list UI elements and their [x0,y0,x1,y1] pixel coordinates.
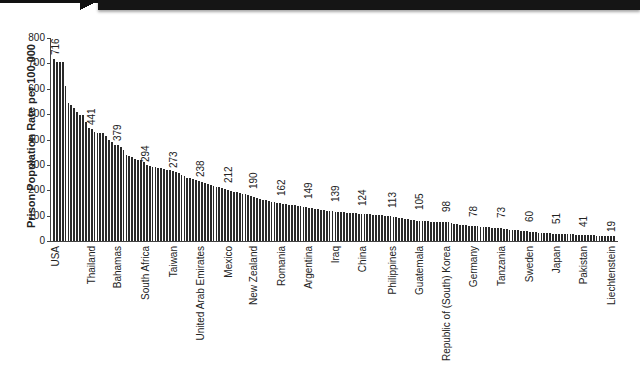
bar [276,203,278,241]
bar [82,115,84,241]
bar [53,59,55,241]
bar [581,235,583,241]
bar [268,201,270,241]
bar [245,194,247,241]
bar [279,203,281,241]
bar [311,208,313,241]
x-tick-label: Tanzania [496,246,507,373]
bar [282,204,284,241]
bar [433,222,435,241]
x-tick-label: Thailand [86,246,97,373]
x-tick-label: Philippines [387,246,398,373]
value-label: 139 [330,185,341,202]
bar [303,207,305,241]
bar [216,187,218,241]
bar [369,214,371,241]
bar [140,160,142,241]
bar [352,213,354,241]
bar [256,198,258,241]
bar [195,180,197,241]
bar [453,224,455,242]
bar [120,147,122,241]
value-label: 41 [578,215,589,226]
bar [395,217,397,241]
bar [378,215,380,241]
bar [538,233,540,241]
bar [224,189,226,241]
bar [491,228,493,241]
value-label: 73 [496,207,507,218]
bar [236,192,238,241]
bar [157,168,159,241]
bar [416,221,418,241]
bar [189,178,191,241]
value-label: 212 [223,167,234,184]
bar [239,193,241,241]
bar [308,208,310,241]
bar [552,234,554,241]
bar [468,226,470,241]
bar [105,136,107,241]
x-tick-label: Guatemala [414,246,425,373]
x-tick-label: China [357,246,368,373]
bar [430,222,432,241]
bar [483,227,485,241]
bar [442,222,444,241]
bar [390,216,392,241]
bar [143,162,145,241]
bar [300,206,302,241]
value-label: 51 [551,213,562,224]
value-label: 190 [248,172,259,189]
bar [503,229,505,241]
bar [465,225,467,241]
bar [448,222,450,241]
bar [230,191,232,241]
bar [332,211,334,241]
bar [210,185,212,241]
x-axis-line [50,241,618,242]
bar [593,235,595,241]
bar [523,231,525,241]
y-tick-label: 200 [0,184,45,195]
bar [343,212,345,241]
bar [599,236,601,241]
x-tick-label: Republic of (South) Korea [441,246,452,373]
bar [404,219,406,241]
bar [529,232,531,241]
bar [172,171,174,241]
bar [175,172,177,241]
bar [102,133,104,241]
y-tick [47,216,51,217]
x-tick-label: Romania [276,246,287,373]
bar [108,140,110,242]
x-tick-label: New Zealand [248,246,259,373]
bar [558,234,560,241]
bar [584,235,586,241]
bar [364,214,366,241]
bar [274,202,276,241]
bar [335,212,337,241]
bar [169,170,171,241]
bar [459,225,461,241]
bar [213,186,215,241]
bar [128,156,130,241]
bar [227,190,229,241]
x-tick-label: USA [50,246,61,373]
bar [485,227,487,241]
y-tick-label: 500 [0,108,45,119]
bar [535,232,537,241]
bar [590,235,592,241]
bar [541,233,543,241]
value-label: 716 [50,39,61,56]
bar [410,220,412,241]
bar [114,145,116,241]
y-tick [47,165,51,166]
bar [613,236,615,241]
bar [509,230,511,241]
bar [355,213,357,241]
value-label: 162 [276,179,287,196]
bar [88,128,90,241]
value-label: 294 [140,146,151,163]
bar [393,217,395,241]
x-tick-label: United Arab Emirates [195,246,206,373]
